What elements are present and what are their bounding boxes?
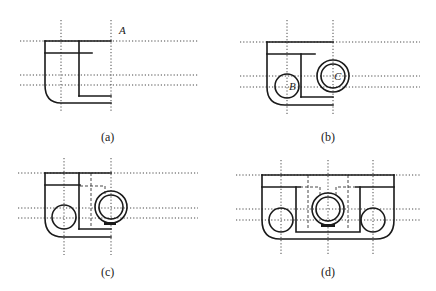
centerlines-a — [20, 20, 198, 112]
panel-c: (c) — [18, 158, 198, 279]
caption-c: (c) — [101, 265, 114, 279]
point-label-c: C — [334, 70, 342, 82]
panel-b: B C (b) — [240, 20, 420, 144]
point-label-a: A — [118, 24, 126, 36]
figure-canvas: A (a) B C (b) — [0, 0, 436, 291]
caption-b: (b) — [321, 130, 335, 144]
fillet-mark-d — [321, 224, 335, 227]
caption-a: (a) — [101, 130, 114, 144]
fillet-mark-c — [104, 222, 116, 225]
panel-d: (d) — [236, 160, 420, 279]
point-label-b: B — [289, 80, 296, 92]
panel-a: A (a) — [20, 20, 198, 144]
caption-d: (d) — [321, 265, 335, 279]
outline-c — [45, 173, 127, 237]
outline-d — [262, 175, 394, 239]
outline-a — [45, 41, 111, 103]
